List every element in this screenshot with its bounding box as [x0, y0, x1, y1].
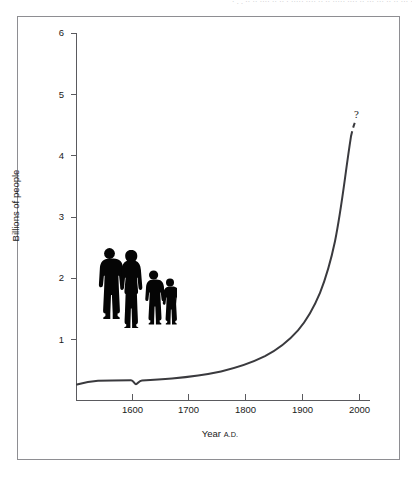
x-tick-label-1600: 1600 [113, 405, 153, 415]
family-silhouettes-icon [95, 246, 177, 328]
woman-silhouette [120, 250, 142, 328]
x-axis-title: Year A.D. [150, 428, 290, 440]
x-tick-label-1900: 1900 [283, 405, 323, 415]
y-tick-label-2: 2 [48, 273, 64, 283]
y-axis-ticks [71, 34, 77, 340]
population-curve-projected [351, 121, 356, 136]
x-tick-label-1800: 1800 [226, 405, 266, 415]
man-silhouette [99, 248, 124, 319]
x-tick-label-2000: 2000 [340, 405, 380, 415]
y-tick-label-3: 3 [48, 212, 64, 222]
x-axis-title-main: Year [202, 428, 221, 439]
child-silhouette [145, 270, 164, 324]
y-tick-label-6: 6 [48, 28, 64, 38]
y-tick-label-1: 1 [48, 335, 64, 345]
small-child-silhouette [163, 279, 177, 325]
population-growth-chart: 6 5 4 3 2 1 1600 1700 1800 1900 2000 Bil… [0, 0, 417, 479]
x-tick-label-1700: 1700 [169, 405, 209, 415]
x-axis-ticks [133, 394, 360, 401]
y-tick-label-4: 4 [48, 151, 64, 161]
x-axis-title-era: A.D. [224, 430, 239, 439]
y-tick-label-5: 5 [48, 90, 64, 100]
projection-question-mark: ? [354, 108, 359, 120]
y-axis-title: Billions of people [10, 136, 21, 276]
